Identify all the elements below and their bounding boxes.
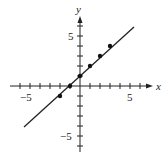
- y-tick-label-neg5: −5: [60, 130, 72, 142]
- x-axis-arrow-icon: [146, 84, 153, 89]
- coordinate-plot: x y −5 5 5 −5: [0, 0, 166, 157]
- y-tick-label-5: 5: [68, 30, 74, 42]
- x-tick-label-neg5: −5: [20, 91, 32, 103]
- axes: [10, 16, 153, 152]
- data-point: [108, 44, 112, 48]
- x-tick-label-5: 5: [127, 91, 133, 103]
- data-point: [78, 74, 82, 78]
- data-point: [58, 94, 62, 98]
- data-point: [68, 84, 72, 88]
- x-axis-label: x: [155, 80, 161, 92]
- data-point: [98, 54, 102, 58]
- y-axis-arrow-icon: [78, 16, 83, 23]
- y-axis-label: y: [75, 3, 81, 15]
- data-point: [88, 64, 92, 68]
